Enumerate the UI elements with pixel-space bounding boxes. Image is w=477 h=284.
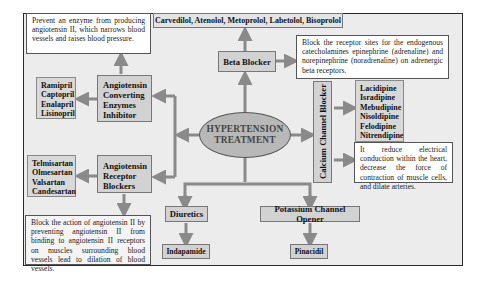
beta-blocker-description: Block the receptor sites for the endogen… <box>296 35 449 79</box>
ace-inhibitor-node: Angiotensin Converting Enzymes Inhibitor <box>97 75 152 122</box>
arb-drugs: Telmisartan Olmesartan Valsartan Candesa… <box>27 155 76 197</box>
ace-inhibitor-description: Prevent an enzyme from producing angiote… <box>26 13 151 54</box>
diuretics-drug: Indapamide <box>162 244 210 259</box>
calcium-channel-blocker-description: It reduce electrical conduction within t… <box>354 142 453 183</box>
potassium-channel-opener-drug: Pinacidil <box>290 244 328 259</box>
arb-description: Block the action of angiotensin II by pr… <box>25 215 151 265</box>
diuretics-node: Diuretics <box>165 206 208 222</box>
calcium-channel-blocker-node: Calcium Channel Blocker <box>313 81 332 183</box>
potassium-channel-opener-node: Potassium Channel Opener <box>260 206 360 222</box>
beta-blocker-drugs: Carvedilol, Atenolol, Metoprolol, Labeto… <box>153 13 343 28</box>
calcium-channel-blocker-drugs: Lacidipine Isradipine Mebudipine Nisoldi… <box>355 80 404 142</box>
beta-blocker-node: Beta Blocker <box>218 51 276 72</box>
ace-inhibitor-drugs: Ramipril Captopril Enalapril Lisinopril <box>36 77 76 119</box>
hypertension-treatment-center: HYPERTENSION TREATMENT <box>199 112 291 158</box>
arb-node: Angiotensin Receptor Blockers <box>97 155 152 193</box>
